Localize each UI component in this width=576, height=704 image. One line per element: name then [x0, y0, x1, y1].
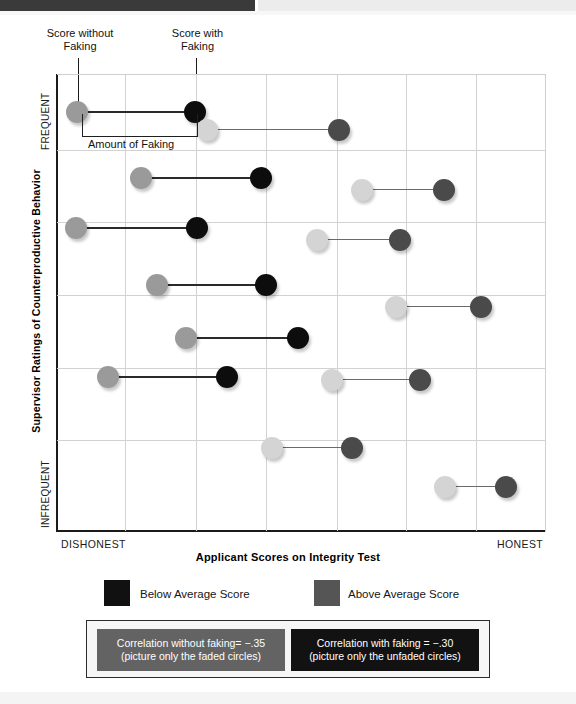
dot-score-with-faking: [255, 274, 277, 296]
gridline-v: [266, 75, 267, 531]
callout-stem-without: [78, 58, 79, 104]
faking-connector-line: [108, 376, 227, 378]
gridline-h: [57, 295, 546, 296]
dot-score-without-faking: [97, 366, 119, 388]
x-axis-title: Applicant Scores on Integrity Test: [0, 551, 576, 563]
dot-score-without-faking: [196, 119, 218, 141]
footer-band: [0, 692, 576, 704]
callout-score-without-faking: Score without Faking: [20, 27, 140, 53]
dot-score-with-faking: [328, 119, 350, 141]
faking-connector-line: [396, 306, 481, 307]
dot-score-with-faking: [495, 476, 517, 498]
gridline-h: [57, 222, 546, 223]
dot-score-without-faking: [351, 179, 373, 201]
faking-connector-line: [186, 337, 298, 339]
dot-score-with-faking: [287, 327, 309, 349]
header-band-light: [258, 0, 576, 11]
figure-canvas: Score without Faking Score with Faking S…: [0, 0, 576, 704]
y-tick-frequent: FREQUENT: [40, 93, 51, 150]
gridline-h: [57, 150, 546, 151]
dot-score-with-faking: [216, 366, 238, 388]
gridline-v: [196, 75, 197, 531]
callout-score-with-line2: Faking: [145, 40, 250, 53]
legend-swatch-above-average: [314, 580, 340, 606]
dot-score-with-faking: [341, 437, 363, 459]
callout-score-with-line1: Score with: [145, 27, 250, 40]
gridline-h: [57, 368, 546, 369]
gridline-v: [337, 75, 338, 531]
dot-score-with-faking: [433, 179, 455, 201]
x-tick-honest: HONEST: [497, 538, 543, 550]
dot-score-without-faking: [65, 217, 87, 239]
callout-score-without-line2: Faking: [20, 40, 140, 53]
correlation-with-line2: (picture only the unfaded circles): [309, 650, 461, 663]
callout-score-without-line1: Score without: [20, 27, 140, 40]
header-rule: [0, 11, 576, 15]
plot-top-border: [57, 74, 546, 75]
correlation-panel-with-faking: Correlation with faking = −.30 (picture …: [291, 629, 479, 671]
dot-score-without-faking: [434, 476, 456, 498]
x-axis-line: [56, 530, 546, 532]
faking-connector-line: [317, 239, 400, 240]
dot-score-without-faking: [130, 167, 152, 189]
dot-score-without-faking: [175, 327, 197, 349]
dot-score-with-faking: [389, 229, 411, 251]
dot-score-with-faking: [470, 296, 492, 318]
y-axis-line: [56, 74, 58, 532]
gridline-h: [57, 440, 546, 441]
plot-right-border: [545, 74, 546, 532]
dot-score-without-faking: [385, 296, 407, 318]
correlation-box: Correlation without faking= −.35 (pictur…: [86, 620, 490, 678]
amount-of-faking-bracket: [82, 114, 198, 137]
legend-swatch-below-average: [104, 580, 130, 606]
correlation-without-line1: Correlation without faking= −.35: [117, 637, 265, 650]
dot-score-without-faking: [306, 229, 328, 251]
faking-connector-line: [362, 189, 444, 190]
faking-connector-line: [157, 284, 266, 286]
legend-label-below-average: Below Average Score: [140, 588, 250, 600]
correlation-panel-without-faking: Correlation without faking= −.35 (pictur…: [97, 629, 285, 671]
faking-connector-line: [141, 177, 261, 179]
correlation-with-line1: Correlation with faking = −.30: [309, 637, 461, 650]
dot-score-with-faking: [409, 369, 431, 391]
amount-of-faking-label: Amount of Faking: [88, 138, 174, 150]
faking-connector-line: [272, 447, 352, 448]
header-band-dark: [0, 0, 255, 11]
correlation-without-line2: (picture only the faded circles): [117, 650, 265, 663]
faking-connector-line: [207, 129, 339, 130]
faking-connector-line: [76, 227, 197, 229]
y-axis-title: Supervisor Ratings of Counterproductive …: [30, 151, 42, 451]
dot-score-without-faking: [321, 369, 343, 391]
dot-score-without-faking: [146, 274, 168, 296]
legend-label-above-average: Above Average Score: [348, 588, 459, 600]
dot-score-with-faking: [250, 167, 272, 189]
faking-connector-line: [77, 111, 195, 113]
x-tick-dishonest: DISHONEST: [61, 538, 126, 550]
dot-score-with-faking: [186, 217, 208, 239]
dot-score-without-faking: [261, 437, 283, 459]
faking-connector-line: [332, 379, 420, 380]
callout-score-with-faking: Score with Faking: [145, 27, 250, 53]
y-tick-infrequent: INFREQUENT: [40, 460, 51, 528]
